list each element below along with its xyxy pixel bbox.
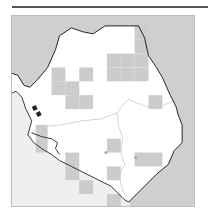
- grid-cell: [107, 194, 121, 206]
- grid-cell: [107, 54, 121, 68]
- grid-cell: [107, 166, 121, 180]
- grid-cell: [79, 180, 93, 194]
- grid-cell: [65, 166, 79, 180]
- grid-cell: [65, 81, 79, 95]
- map-frame: [11, 15, 195, 207]
- grid-cell: [52, 67, 66, 81]
- grid-cell: [79, 95, 93, 109]
- grid-cell: [135, 153, 163, 167]
- grid-cell: [107, 67, 121, 81]
- map-svg: [12, 16, 194, 206]
- grid-cell: [121, 67, 135, 81]
- grid-cell: [121, 54, 135, 68]
- point-marker: [134, 156, 137, 159]
- top-rule: [12, 6, 208, 8]
- point-marker: [104, 151, 107, 154]
- grid-cell: [135, 67, 149, 81]
- grid-cell: [107, 139, 121, 153]
- grid-cell: [135, 54, 149, 68]
- grid-cell: [65, 95, 79, 109]
- grid-cell: [79, 67, 93, 81]
- grid-cell: [52, 81, 66, 95]
